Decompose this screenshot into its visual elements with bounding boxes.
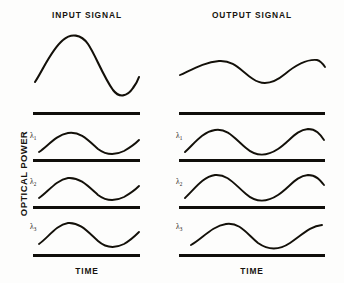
x-axis-label-input: TIME	[32, 266, 142, 276]
output-lambda-1-waveform	[184, 125, 325, 161]
channel-label-output-lambda-1: λ1	[176, 131, 182, 140]
divider-rule-right-1	[179, 112, 325, 115]
input-lambda-1-waveform	[38, 128, 140, 160]
output-signal-title: OUTPUT SIGNAL	[178, 10, 326, 20]
channel-label-output-lambda-3: λ3	[176, 222, 182, 231]
channel-label-input-lambda-2: λ2	[30, 177, 36, 186]
channel-label-output-lambda-2: λ2	[176, 177, 182, 186]
output-lambda-2-waveform	[184, 171, 325, 207]
divider-rule-left-2	[33, 159, 140, 162]
input-lambda-2-waveform	[38, 174, 140, 206]
output-signal-waveform	[179, 55, 326, 95]
divider-rule-left-4	[33, 254, 140, 257]
output-lambda-3-waveform	[190, 219, 325, 253]
input-signal-title: INPUT SIGNAL	[32, 10, 142, 20]
optical-power-figure: OPTICAL POWER INPUT SIGNAL OUTPUT SIGNAL…	[0, 0, 344, 283]
divider-rule-right-4	[179, 254, 325, 257]
divider-rule-left-1	[33, 112, 140, 115]
channel-label-input-lambda-3: λ3	[30, 222, 36, 231]
channel-label-input-lambda-1: λ1	[30, 131, 36, 140]
y-axis-label: OPTICAL POWER	[18, 104, 29, 244]
x-axis-label-output: TIME	[178, 266, 326, 276]
input-signal-waveform	[33, 28, 141, 108]
input-lambda-3-waveform	[38, 219, 140, 253]
divider-rule-left-3	[33, 206, 140, 209]
divider-rule-right-3	[179, 206, 325, 209]
divider-rule-right-2	[179, 159, 325, 162]
